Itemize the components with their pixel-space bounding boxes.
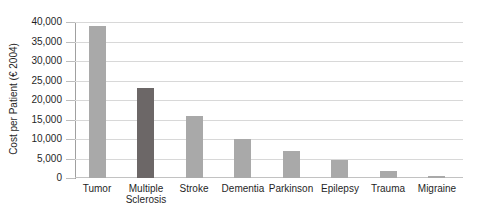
y-axis-tick-mark <box>66 42 75 43</box>
y-axis-tick-label: 40,000 <box>0 17 62 27</box>
bar-multiple-sclerosis <box>137 88 154 178</box>
x-axis-baseline <box>75 177 463 178</box>
bar-parkinson <box>283 151 300 178</box>
y-axis-tick-mark <box>66 22 75 23</box>
x-axis-label-migraine: Migraine <box>403 183 471 194</box>
bar-trauma <box>380 171 397 178</box>
x-axis-category-labels: TumorMultiple SclerosisStrokeDementiaPar… <box>75 183 463 209</box>
y-axis-tick-label: 10,000 <box>0 134 62 144</box>
y-axis-tick-mark <box>66 100 75 101</box>
y-axis-tick-label: 15,000 <box>0 115 62 125</box>
gridline <box>75 42 463 43</box>
gridline <box>75 81 463 82</box>
y-axis-tick-mark <box>66 139 75 140</box>
y-axis-tick-label: 5,000 <box>0 154 62 164</box>
bar-migraine <box>428 176 445 178</box>
bar-dementia <box>234 139 251 178</box>
gridline <box>75 120 463 121</box>
gridline <box>75 61 463 62</box>
y-axis-tick-label: 20,000 <box>0 95 62 105</box>
y-axis-tick-label: 25,000 <box>0 76 62 86</box>
y-axis-tick-mark <box>66 81 75 82</box>
gridline <box>75 139 463 140</box>
bar-epilepsy <box>331 160 348 178</box>
y-axis-tick-mark <box>66 61 75 62</box>
bar-stroke <box>186 116 203 178</box>
y-axis-tick-label: 35,000 <box>0 37 62 47</box>
plot-area <box>75 22 463 178</box>
gridline <box>75 100 463 101</box>
y-axis-tick-mark <box>66 159 75 160</box>
y-axis-tick-label: 0 <box>0 173 62 183</box>
gridline <box>75 22 463 23</box>
cost-per-patient-bar-chart: Cost per Patient (€ 2004) 05,00010,00015… <box>0 0 480 221</box>
y-axis-tick-label: 30,000 <box>0 56 62 66</box>
gridline <box>75 159 463 160</box>
y-axis-tick-mark <box>66 120 75 121</box>
y-axis-tick-mark <box>66 178 75 179</box>
bar-tumor <box>89 26 106 178</box>
